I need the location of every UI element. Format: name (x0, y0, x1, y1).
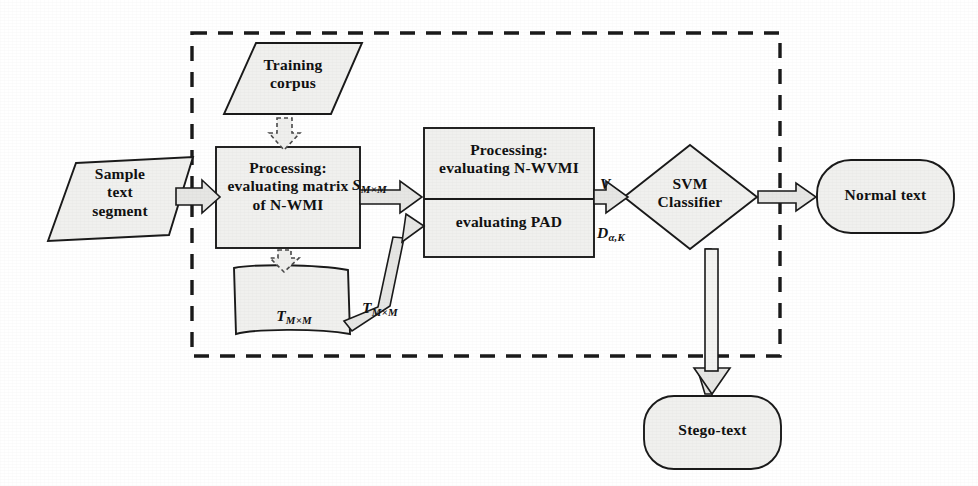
node-training-corpus (224, 43, 362, 114)
node-stego-text (644, 396, 781, 469)
flowchart-svg (0, 0, 978, 486)
node-processing-nwvmi-pad (424, 128, 594, 257)
edge-stego-shaft (705, 249, 718, 371)
edge-svm-to-normal-text (758, 183, 816, 211)
edge-nwmi-to-nwvmi (360, 181, 422, 213)
edge-training-to-processing (269, 118, 300, 150)
edge-datastore-to-nwvmi (344, 237, 404, 331)
edge-nwvmi-to-svm (594, 181, 628, 213)
node-processing-nwmi (216, 147, 360, 248)
node-svm-classifier (624, 145, 757, 249)
node-data-store-tmatrix (234, 265, 350, 334)
edge-datastore-arrowhead (402, 214, 424, 242)
edge-stego-arrowhead (694, 368, 730, 394)
node-sample-text-segment (48, 157, 193, 241)
diagram-canvas: Sample text segment Training corpus Proc… (0, 0, 978, 486)
node-normal-text (817, 160, 954, 233)
